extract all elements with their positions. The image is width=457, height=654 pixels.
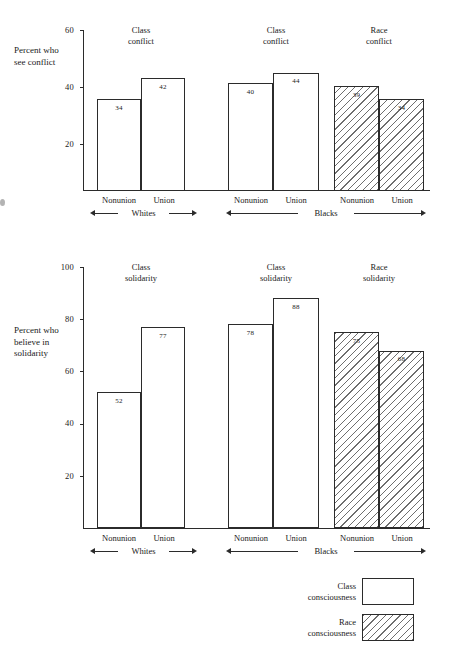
legend-item-race-consciousness: Race consciousness <box>278 614 414 641</box>
legend-item-class-consciousness: Class consciousness <box>278 578 414 605</box>
figure-page: 60 40 20 Percent who see conflict Class … <box>0 0 457 654</box>
legend-swatch-class-consciousness <box>362 578 414 605</box>
legend-swatch-race-consciousness <box>362 614 414 641</box>
legend-label-race-consciousness: Race consciousness <box>278 617 356 638</box>
legend-label-class-consciousness: Class consciousness <box>278 581 356 602</box>
figure-legend: Class consciousness Race consciousness <box>0 0 457 654</box>
